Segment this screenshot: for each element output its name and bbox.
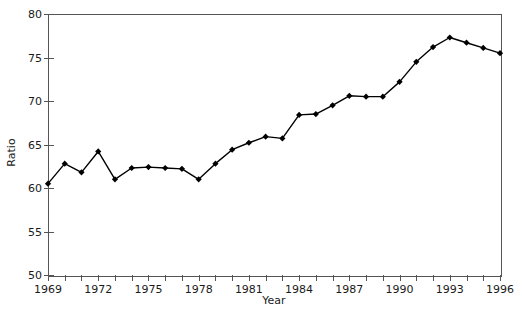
x-tick-label: 1993 <box>430 283 470 296</box>
x-tick-label: 1972 <box>78 283 118 296</box>
y-tick-mark <box>44 14 50 15</box>
x-tick-mark <box>232 275 233 281</box>
y-tick-mark-inner <box>49 58 54 59</box>
x-tick-label: 1975 <box>128 283 168 296</box>
chart-figure: Ratio 50556065707580 Year 19691972197519… <box>0 0 522 313</box>
x-tick-mark <box>148 275 149 281</box>
series-markers <box>45 34 503 186</box>
data-point <box>145 164 151 170</box>
x-tick-mark <box>199 275 200 281</box>
x-tick-label: 1981 <box>229 283 269 296</box>
data-point <box>162 165 168 171</box>
x-tick-mark <box>316 275 317 281</box>
x-tick-mark <box>81 275 82 281</box>
x-tick-label: 1996 <box>480 283 520 296</box>
data-point <box>447 34 453 40</box>
x-tick-label: 1978 <box>179 283 219 296</box>
x-tick-mark <box>366 275 367 281</box>
x-tick-label: 1984 <box>279 283 319 296</box>
x-tick-mark <box>115 275 116 281</box>
data-point <box>463 40 469 46</box>
x-tick-mark <box>433 275 434 281</box>
x-tick-mark <box>266 275 267 281</box>
data-series-layer <box>0 0 522 313</box>
series-line <box>48 37 500 183</box>
data-point <box>363 94 369 100</box>
data-point <box>480 45 486 51</box>
data-point <box>263 134 269 140</box>
x-tick-mark <box>467 275 468 281</box>
data-point <box>329 102 335 108</box>
x-tick-label: 1990 <box>380 283 420 296</box>
x-tick-mark <box>400 275 401 281</box>
x-tick-mark <box>48 275 49 281</box>
x-tick-mark <box>349 275 350 281</box>
data-point <box>246 140 252 146</box>
x-tick-mark <box>416 275 417 281</box>
y-tick-mark-inner <box>49 232 54 233</box>
x-tick-mark <box>132 275 133 281</box>
x-tick-mark <box>483 275 484 281</box>
x-tick-mark <box>282 275 283 281</box>
x-tick-mark <box>299 275 300 281</box>
x-tick-mark <box>249 275 250 281</box>
x-tick-label: 1969 <box>28 283 68 296</box>
x-tick-mark <box>383 275 384 281</box>
y-tick-mark-inner <box>49 275 54 276</box>
data-point <box>497 50 503 56</box>
x-tick-mark <box>333 275 334 281</box>
data-point <box>313 111 319 117</box>
x-tick-mark <box>98 275 99 281</box>
data-point <box>346 93 352 99</box>
y-tick-mark-inner <box>49 101 54 102</box>
y-tick-mark-inner <box>49 145 54 146</box>
x-tick-mark <box>450 275 451 281</box>
x-tick-mark <box>500 275 501 281</box>
x-tick-mark <box>65 275 66 281</box>
x-tick-mark <box>165 275 166 281</box>
x-tick-label: 1987 <box>329 283 369 296</box>
x-tick-mark <box>182 275 183 281</box>
x-tick-mark <box>215 275 216 281</box>
y-tick-mark-inner <box>49 188 54 189</box>
